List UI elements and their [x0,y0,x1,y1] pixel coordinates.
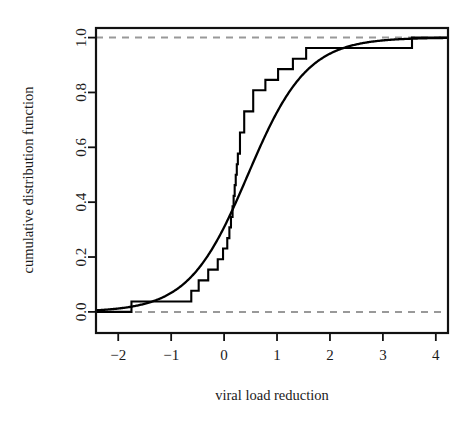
x-tick-label: 3 [379,347,387,363]
x-tick-label: −1 [163,347,179,363]
y-tick-label: 0.2 [73,248,89,267]
x-tick-label: 2 [326,347,334,363]
y-tick-label: 0.6 [73,137,89,156]
y-tick-label: 1.0 [73,28,89,47]
y-axis-title: cumulative distribution function [20,86,36,274]
x-tick-label: 1 [273,347,281,363]
figure-background [0,0,471,426]
x-axis-title: viral load reduction [215,387,329,403]
cdf-plot-svg: −2−101234 0.00.20.40.60.81.0 viral load … [0,0,471,426]
y-tick-label: 0.0 [73,303,89,322]
x-tick-label: −2 [110,347,126,363]
y-tick-label: 0.4 [73,192,89,211]
y-tick-label: 0.8 [73,83,89,102]
chart-figure: −2−101234 0.00.20.40.60.81.0 viral load … [0,0,471,426]
x-tick-label: 4 [432,347,440,363]
x-tick-label: 0 [220,347,228,363]
